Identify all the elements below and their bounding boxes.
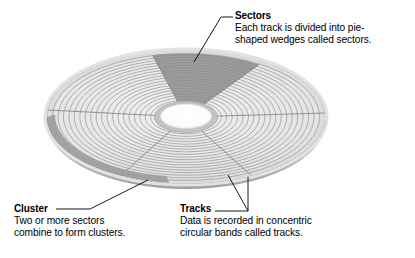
- disk-body: [45, 49, 327, 189]
- callout-tracks-title: Tracks: [180, 203, 312, 215]
- callout-tracks-line-2: circular bands called tracks.: [180, 227, 312, 239]
- callout-cluster: Cluster Two or more sectors combine to f…: [14, 203, 125, 239]
- callout-cluster-title: Cluster: [14, 203, 125, 215]
- hub-hole: [161, 104, 212, 128]
- callout-sectors-line-1: Each track is divided into pie-: [235, 22, 371, 34]
- callout-tracks: Tracks Data is recorded in concentric ci…: [180, 203, 312, 239]
- callout-cluster-line-1: Two or more sectors: [14, 215, 125, 227]
- callout-sectors-title: Sectors: [235, 10, 371, 22]
- disk-platter-diagram: Sectors Each track is divided into pie- …: [0, 0, 415, 258]
- callout-cluster-line-2: combine to form clusters.: [14, 227, 125, 239]
- callout-tracks-line-1: Data is recorded in concentric: [180, 215, 312, 227]
- callout-sectors-line-2: shaped wedges called sectors.: [235, 34, 371, 46]
- callout-sectors: Sectors Each track is divided into pie- …: [235, 10, 371, 46]
